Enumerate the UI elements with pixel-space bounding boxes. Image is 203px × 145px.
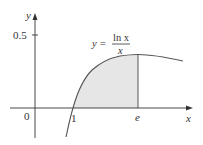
- tick-label-half: 0.5: [13, 29, 27, 41]
- x-axis-label: x: [185, 112, 191, 124]
- shaded-area: [73, 55, 138, 109]
- tick-label-one: 1: [71, 112, 77, 124]
- equation-lhs: y =: [91, 38, 106, 49]
- x-axis-arrow-icon: [186, 106, 193, 111]
- tick-label-e: e: [135, 111, 140, 123]
- equation-numerator: ln x: [113, 32, 130, 43]
- y-axis-label: y: [25, 9, 31, 21]
- origin-label: 0: [24, 110, 30, 122]
- y-axis-arrow-icon: [33, 13, 38, 20]
- equation-denominator: x: [117, 45, 123, 56]
- chart: y x 0 0.5 1 e y = ln x x: [0, 0, 203, 145]
